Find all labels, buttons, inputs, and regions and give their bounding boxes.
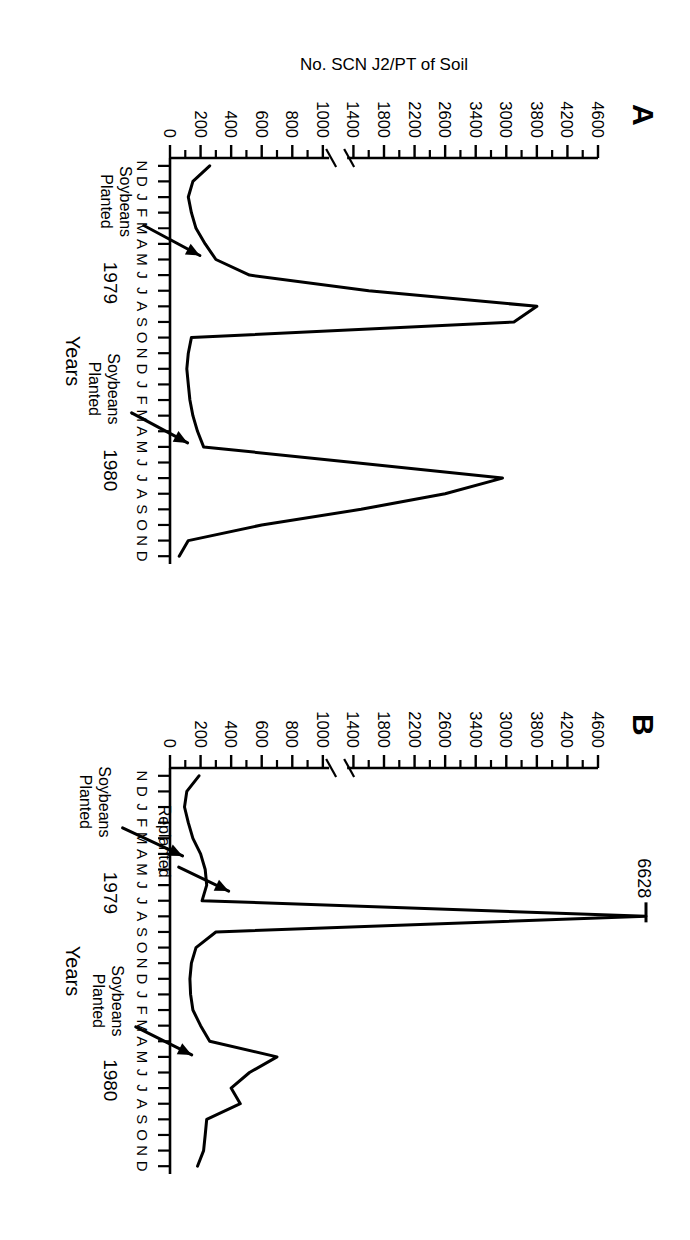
- y-axis-tick-label: 3000: [497, 101, 515, 138]
- annotation-text: Replanted: [156, 805, 173, 878]
- x-axis-month-label: S: [134, 504, 151, 514]
- x-axis-month-label: F: [134, 395, 151, 404]
- annotation-label: SoybeansPlanted: [98, 166, 134, 237]
- panel-a: A 02004006008001000140018002200260034003…: [0, 8, 690, 608]
- annotation-text: Planted: [90, 974, 107, 1028]
- y-axis-tick-label: 1000: [314, 711, 332, 748]
- x-axis-year-label: 1979: [100, 872, 121, 914]
- x-axis-month-label: J: [134, 897, 151, 905]
- x-axis-month-label: S: [134, 927, 151, 937]
- x-axis-month-label: N: [134, 535, 151, 546]
- y-axis-tick-label: 400: [222, 720, 240, 748]
- y-axis-tick-label: 800: [283, 720, 301, 748]
- x-axis-month-label: J: [134, 381, 151, 389]
- x-axis-month-label: A: [134, 911, 151, 921]
- peak-value-label: 6628: [634, 858, 654, 898]
- annotation-text: Planted: [77, 775, 94, 829]
- annotation-arrow: [123, 828, 183, 856]
- annotation-text: Planted: [86, 362, 103, 416]
- x-axis-month-label: D: [134, 176, 151, 187]
- x-axis-title: Years: [62, 946, 84, 996]
- x-axis-month-label: D: [134, 973, 151, 984]
- x-axis-month-label: M: [134, 253, 151, 266]
- x-axis-month-label: M: [134, 863, 151, 876]
- x-axis-month-label: J: [134, 271, 151, 279]
- x-axis-month-label: A: [134, 426, 151, 436]
- x-axis-month-label: A: [134, 301, 151, 311]
- x-axis-month-label: J: [134, 474, 151, 482]
- x-axis-month-label: D: [134, 551, 151, 562]
- y-axis-tick-label: 2200: [406, 711, 424, 748]
- x-axis-month-label: A: [134, 489, 151, 499]
- x-axis-month-label: D: [134, 786, 151, 797]
- x-axis-month-label: M: [134, 1051, 151, 1064]
- y-axis-tick-label: 1800: [375, 711, 393, 748]
- y-axis-tick-label: 4600: [589, 711, 607, 748]
- x-axis-month-label: F: [134, 818, 151, 827]
- annotation-text: Soybeans: [96, 766, 113, 837]
- y-axis-tick-label: 0: [161, 129, 179, 138]
- x-axis-month-label: N: [134, 348, 151, 359]
- figure-root: A 02004006008001000140018002200260034003…: [0, 0, 690, 1240]
- x-axis-month-label: O: [134, 942, 151, 954]
- y-axis-tick-label: 4600: [589, 101, 607, 138]
- x-axis-month-label: F: [134, 1005, 151, 1014]
- y-axis-tick-label: 3800: [528, 711, 546, 748]
- y-axis-tick-label: 3400: [467, 711, 485, 748]
- y-axis-tick-label: 800: [283, 110, 301, 138]
- x-axis-year-label: 1980: [100, 1059, 121, 1101]
- x-axis-month-label: A: [134, 239, 151, 249]
- y-axis-tick-label: 600: [253, 720, 271, 748]
- x-axis-month-label: J: [134, 193, 151, 201]
- y-axis-tick-label: 3000: [497, 711, 515, 748]
- annotation-arrow: [144, 226, 200, 256]
- x-axis-month-label: J: [134, 803, 151, 811]
- y-axis-tick-label: 3800: [528, 101, 546, 138]
- y-axis-tick-label: 200: [192, 110, 210, 138]
- x-axis-month-label: N: [134, 160, 151, 171]
- y-axis-tick-label: 1400: [344, 711, 362, 748]
- panel-b: B 02004006008001000140018002200260034003…: [0, 618, 690, 1218]
- y-axis-tick-label: 1400: [344, 101, 362, 138]
- annotation-label: SoybeansPlanted: [77, 766, 113, 837]
- annotation-label: SoybeansPlanted: [90, 965, 126, 1036]
- x-axis-month-label: D: [134, 363, 151, 374]
- panel-a-plot: 0200400600800100014001800220026003400300…: [0, 8, 690, 608]
- x-axis-year-label: 1979: [100, 262, 121, 304]
- data-line: [179, 166, 537, 556]
- figure-rotation-stage: A 02004006008001000140018002200260034003…: [0, 0, 690, 1240]
- y-axis-title: No. SCN J2/PT of Soil: [300, 55, 468, 74]
- y-axis-tick-label: 2600: [436, 711, 454, 748]
- x-axis-month-label: N: [134, 770, 151, 781]
- x-axis-month-label: J: [134, 1084, 151, 1092]
- x-axis-month-label: A: [134, 1099, 151, 1109]
- annotation-arrow: [179, 867, 229, 891]
- y-axis-tick-label: 1800: [375, 101, 393, 138]
- x-axis-month-label: J: [134, 991, 151, 999]
- x-axis-month-label: S: [134, 317, 151, 327]
- x-axis-month-label: A: [134, 1036, 151, 1046]
- y-axis-tick-label: 200: [192, 720, 210, 748]
- y-axis-tick-label: 2600: [436, 101, 454, 138]
- x-axis-month-label: N: [134, 958, 151, 969]
- y-axis-tick-label: 600: [253, 110, 271, 138]
- panel-b-plot: 0200400600800100014001800220026003400300…: [0, 618, 690, 1218]
- x-axis-month-label: J: [134, 1069, 151, 1077]
- y-axis-tick-label: 400: [222, 110, 240, 138]
- annotation-label: Replanted: [156, 805, 173, 878]
- y-axis-tick-label: 4200: [558, 711, 576, 748]
- y-axis-tick-label: 3400: [467, 101, 485, 138]
- x-axis-month-label: A: [134, 849, 151, 859]
- y-axis-tick-label: 4200: [558, 101, 576, 138]
- x-axis-month-label: D: [134, 1161, 151, 1172]
- x-axis-month-label: J: [134, 287, 151, 295]
- x-axis-month-label: M: [134, 441, 151, 454]
- annotation-text: Soybeans: [117, 166, 134, 237]
- x-axis-title: Years: [62, 336, 84, 386]
- y-axis-tick-label: 1000: [314, 101, 332, 138]
- x-axis-month-label: J: [134, 881, 151, 889]
- x-axis-month-label: O: [134, 1129, 151, 1141]
- y-axis-tick-label: 0: [161, 739, 179, 748]
- x-axis-month-label: O: [134, 332, 151, 344]
- annotation-text: Soybeans: [105, 353, 122, 424]
